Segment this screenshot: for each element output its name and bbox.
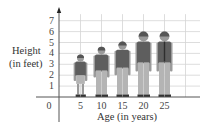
- y-tick-label: 1: [44, 81, 54, 91]
- shorts: [76, 75, 85, 84]
- y-axis-label-line: (in feet): [9, 59, 43, 70]
- x-tick-label: 10: [97, 101, 107, 111]
- x-axis-label: Age (in years): [97, 112, 157, 123]
- y-axis-arrow-icon: [57, 7, 61, 13]
- hair: [118, 41, 126, 45]
- right-pant-leg: [144, 62, 149, 94]
- x-tick-label: 20: [139, 101, 149, 111]
- x-tick-label: 5: [78, 101, 83, 111]
- y-tick-label: 6: [44, 27, 54, 37]
- y-axis-label-line: Height: [12, 46, 41, 57]
- y-tick-label: 4: [44, 48, 54, 58]
- left-pant-leg: [138, 62, 143, 94]
- hair: [98, 47, 106, 51]
- x-tick-label: 15: [118, 101, 128, 111]
- shirt: [116, 50, 129, 69]
- hair: [77, 54, 84, 57]
- height-vs-age-chart: Height(in feet) 1234567 510152025 Age (i…: [0, 0, 202, 132]
- y-tick-label: 3: [44, 59, 54, 69]
- right-pant-leg: [123, 68, 128, 95]
- right-pant-leg: [102, 70, 107, 94]
- necktie: [164, 41, 165, 61]
- left-leg: [77, 84, 79, 95]
- hair: [139, 32, 149, 37]
- left-pant-leg: [117, 68, 122, 95]
- left-pant-leg: [96, 70, 101, 94]
- left-pant-leg: [159, 62, 164, 94]
- right-pant-leg: [165, 62, 170, 94]
- shirt: [75, 61, 86, 76]
- shirt: [137, 41, 150, 63]
- right-leg: [82, 84, 84, 95]
- shirt: [95, 54, 108, 71]
- y-tick-label: 5: [44, 38, 54, 48]
- x-tick-label: 25: [160, 101, 170, 111]
- y-tick-label: 2: [44, 70, 54, 80]
- hair: [160, 32, 170, 37]
- y-tick-label: 7: [44, 16, 54, 26]
- origin-label: 0: [47, 101, 52, 111]
